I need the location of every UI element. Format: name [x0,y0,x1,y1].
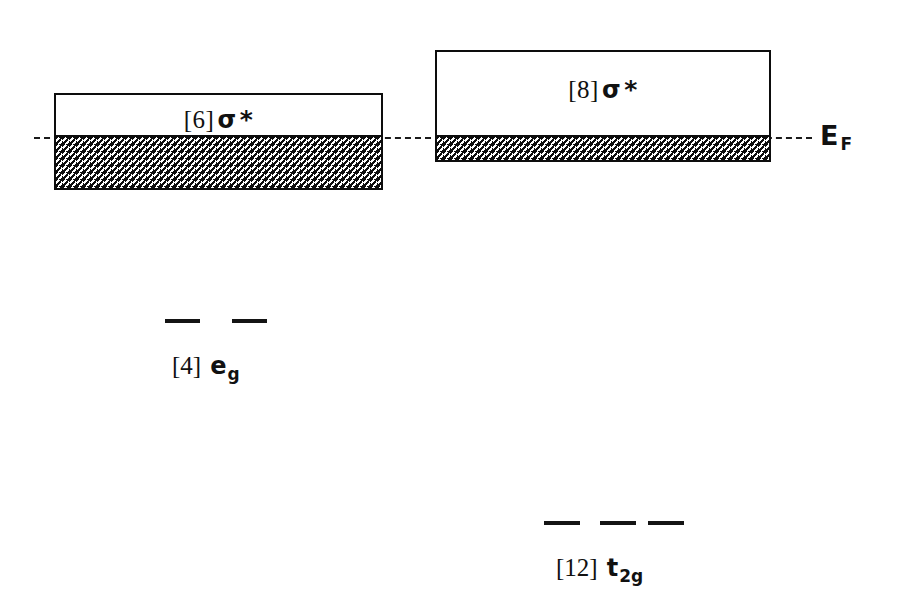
t2g-bracket: [12] [556,554,598,581]
t2g-term: t [598,554,618,582]
level-dash [648,521,684,525]
level-dash [544,521,580,525]
energy-band-diagram: EF [6]σ* [8]σ* [4]eg [12]t2g [0,0,897,610]
level-caption-t2g: [12]t2g [556,555,643,585]
t2g-subscript: 2g [618,566,643,586]
level-dashes-t2g [0,0,897,6]
level-group-t2g: [12]t2g [0,0,897,610]
level-dash [600,521,636,525]
